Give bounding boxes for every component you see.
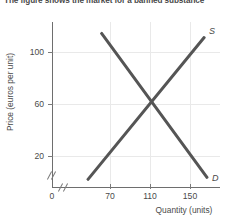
- x-tick-label-110: 110: [135, 191, 165, 201]
- x-tick-70: [110, 184, 111, 189]
- y-tick-60: [48, 104, 53, 105]
- figure-container: The figure shows the market for a banned…: [0, 0, 244, 224]
- y-tick-label-20: 20: [2, 151, 44, 161]
- question-prompt-text: The figure shows the market for a banned…: [4, 0, 204, 5]
- y-tick-100: [48, 52, 53, 53]
- x-axis-line: [52, 187, 220, 188]
- origin-label: 0: [37, 191, 67, 201]
- x-tick-110: [150, 184, 151, 189]
- x-tick-label-70: 70: [95, 191, 125, 201]
- gridline-horizontal-100: [52, 52, 220, 53]
- x-axis-title: Quantity (units): [128, 205, 240, 215]
- supply-curve-label: S: [209, 26, 215, 36]
- gridline-vertical-150: [190, 22, 191, 187]
- demand-curve-label: D: [212, 173, 219, 183]
- supply-demand-chart: 100 60 20 0 70 110 150 Price (euros per …: [0, 9, 244, 224]
- supply-curve-line: [86, 36, 206, 182]
- gridline-horizontal-20: [52, 156, 220, 157]
- y-axis-title: Price (euros per unit): [5, 32, 15, 152]
- x-tick-150: [190, 184, 191, 189]
- header-strip: The figure shows the market for a banned…: [0, 0, 244, 9]
- x-tick-label-150: 150: [175, 191, 205, 201]
- y-tick-20: [48, 156, 53, 157]
- gridline-horizontal-60: [52, 104, 220, 105]
